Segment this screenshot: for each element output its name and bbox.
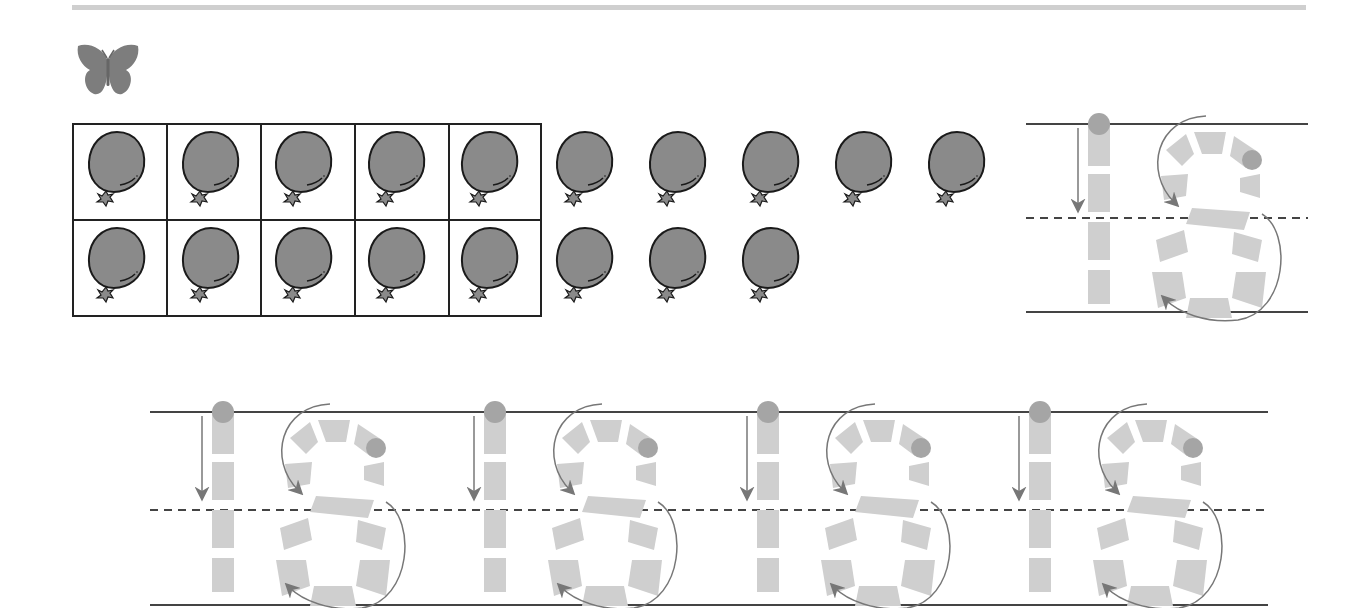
balloon-icon <box>178 128 244 208</box>
balloon-icon <box>271 224 337 304</box>
balloon-icon <box>84 128 150 208</box>
butterfly-icon <box>74 42 142 98</box>
practice-trace-row[interactable] <box>150 400 1268 608</box>
header-rule <box>72 5 1306 10</box>
balloon-icon <box>831 128 897 208</box>
balloon-icon <box>738 224 804 304</box>
balloon-icon <box>552 128 618 208</box>
example-trace-18 <box>1026 112 1308 322</box>
balloon-icon <box>457 128 523 208</box>
balloon-icon <box>364 224 430 304</box>
balloon-icon <box>645 128 711 208</box>
trace-18-2 <box>474 401 677 608</box>
balloon-icon <box>645 224 711 304</box>
balloon-icon <box>178 224 244 304</box>
balloon-icon <box>364 128 430 208</box>
balloon-icon <box>738 128 804 208</box>
balloon-icon <box>271 128 337 208</box>
trace-18-4 <box>1019 401 1222 608</box>
balloon-icon <box>457 224 523 304</box>
trace-18-1 <box>202 401 405 608</box>
balloon-icon <box>924 128 990 208</box>
balloon-icon <box>84 224 150 304</box>
trace-18-3 <box>747 401 950 608</box>
balloon-icon <box>552 224 618 304</box>
